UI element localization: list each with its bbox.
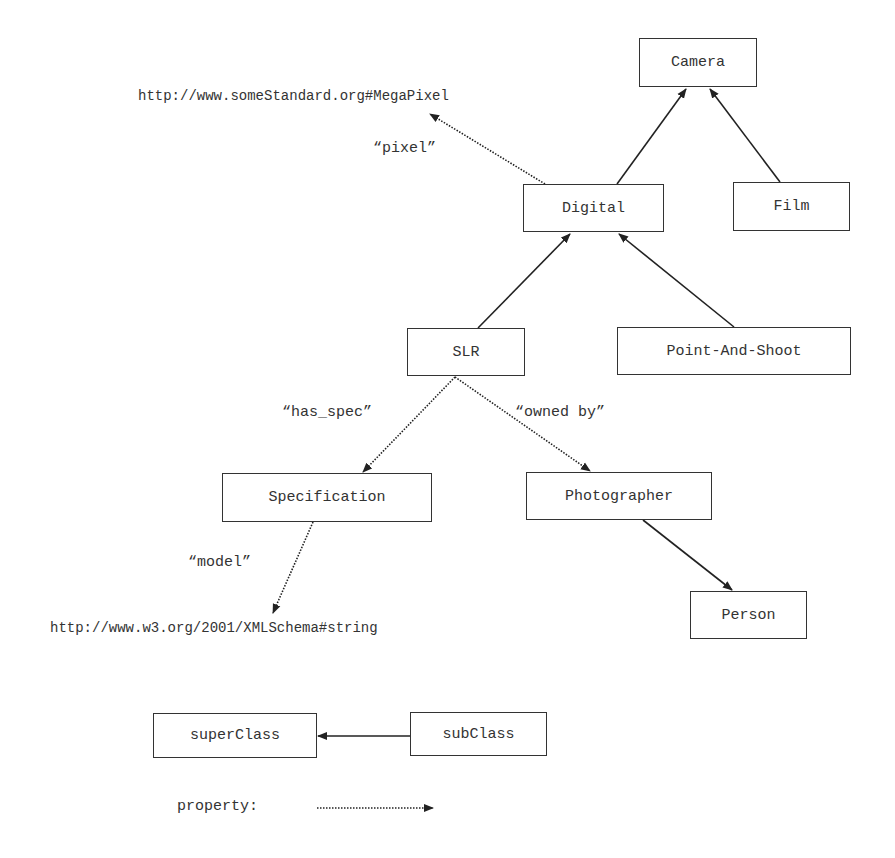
legend-superclass-box: superClass	[153, 713, 317, 758]
node-specification: Specification	[222, 473, 432, 522]
node-person-label: Person	[721, 607, 775, 624]
edge-digital-pixel	[430, 114, 545, 184]
edge-pas-digital	[619, 234, 734, 327]
edge-spec-model	[273, 522, 313, 613]
node-photographer-label: Photographer	[565, 488, 673, 505]
literal-xmlschema-string-uri: http://www.w3.org/2001/XMLSchema#string	[50, 619, 378, 637]
edge-photographer-person	[643, 520, 732, 590]
node-camera-label: Camera	[671, 54, 725, 71]
edge-film-camera	[710, 89, 780, 182]
node-camera: Camera	[639, 38, 757, 87]
node-point-and-shoot: Point-And-Shoot	[617, 327, 851, 375]
legend-subclass-box: subClass	[410, 712, 547, 756]
edge-slr-has-spec	[363, 377, 455, 472]
node-slr: SLR	[407, 328, 525, 376]
node-photographer: Photographer	[526, 472, 712, 520]
literal-megapixel-uri: http://www.someStandard.org#MegaPixel	[138, 87, 449, 105]
node-film: Film	[733, 182, 850, 231]
node-film-label: Film	[773, 198, 809, 215]
node-person: Person	[690, 591, 807, 639]
node-digital: Digital	[523, 184, 664, 232]
property-label-pixel: “pixel”	[373, 140, 436, 158]
edge-digital-camera	[617, 89, 686, 184]
legend-superclass-label: superClass	[190, 727, 280, 744]
node-specification-label: Specification	[268, 489, 385, 506]
node-point-and-shoot-label: Point-And-Shoot	[666, 343, 801, 360]
property-label-model: “model”	[188, 554, 251, 572]
edge-slr-owned-by	[455, 377, 590, 471]
property-label-has-spec: “has_spec”	[282, 404, 372, 422]
node-digital-label: Digital	[562, 200, 625, 217]
node-slr-label: SLR	[452, 344, 479, 361]
edge-slr-digital	[478, 234, 570, 328]
legend-subclass-label: subClass	[442, 726, 514, 743]
legend-property-label: property:	[177, 798, 258, 816]
property-label-owned-by: “owned by”	[515, 404, 605, 422]
